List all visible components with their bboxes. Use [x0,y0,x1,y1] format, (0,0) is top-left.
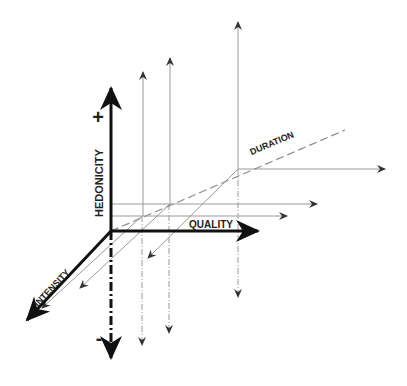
duration-label: DURATION [248,129,295,157]
horizontal-guides [111,169,385,216]
hedonic-space-diagram: + - HEDONICITY QUALITY INTENSITY DURATIO… [0,0,407,386]
hedonicity-label: HEDONICITY [93,148,105,217]
quality-label: QUALITY [189,219,233,230]
intensity-label: INTENSITY [32,267,71,308]
hedonicity-minus-sign: - [96,327,103,349]
hedonicity-plus-sign: + [92,106,104,128]
diagonal-guides [42,169,238,308]
